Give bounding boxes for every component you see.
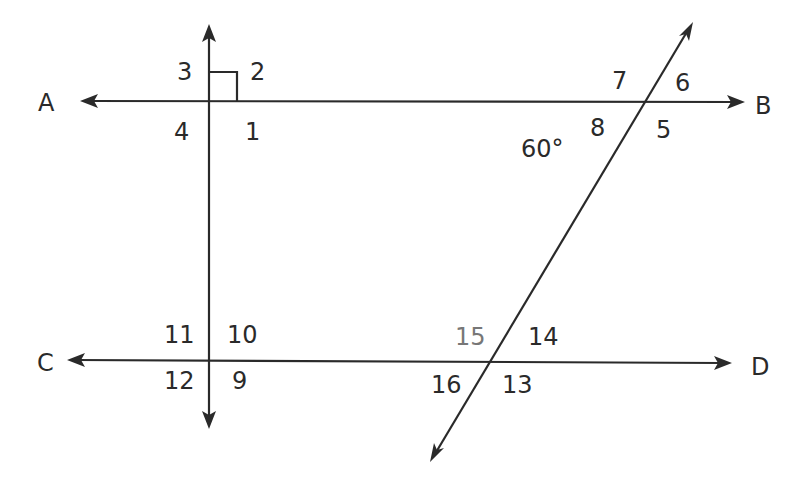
angle-label-1: 1	[245, 118, 260, 146]
angle-label-8: 8	[590, 114, 605, 142]
point-label-c: C	[37, 349, 54, 377]
arrowhead-upper-right	[679, 22, 693, 41]
angle-label-15: 15	[455, 323, 486, 351]
angle-label-7: 7	[612, 67, 627, 95]
perpendicular-transversal	[202, 24, 216, 429]
point-label-a: A	[38, 89, 55, 117]
oblique-transversal	[430, 22, 693, 462]
angle-label-4: 4	[174, 118, 189, 146]
angle-label-16: 16	[431, 371, 462, 399]
angle-label-2: 2	[250, 58, 265, 86]
point-label-d: D	[751, 353, 769, 381]
angle-label-11: 11	[164, 321, 195, 349]
right-angle-marker	[209, 72, 237, 101]
point-label-b: B	[755, 92, 771, 120]
angle-label-9: 9	[232, 367, 247, 395]
geometry-diagram: A B C D 3 2 4 1 7 6 8 5 60° 11 10 12 9 1…	[0, 0, 799, 481]
angle-label-5: 5	[656, 116, 671, 144]
angle-label-6: 6	[675, 69, 690, 97]
angle-label-12: 12	[164, 367, 195, 395]
angle-label-3: 3	[177, 58, 192, 86]
angle-label-10: 10	[227, 321, 258, 349]
angle-label-13: 13	[502, 371, 533, 399]
angle-label-14: 14	[528, 323, 559, 351]
arrowhead-lower-left	[430, 443, 444, 462]
given-angle-label: 60°	[521, 135, 564, 163]
